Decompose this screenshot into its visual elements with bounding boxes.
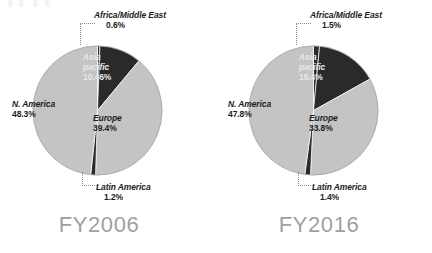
slice-name-europe: Europe xyxy=(93,113,122,123)
slice-name-asia-pacific-line2: pacific xyxy=(299,62,325,72)
slice-label-africa-middle-east: Africa/Middle East 0.6% xyxy=(94,10,166,30)
slice-percent-africa-middle-east: 1.5% xyxy=(322,20,382,30)
slice-name-europe: Europe xyxy=(309,113,338,123)
slice-name-latin-america: Latin America xyxy=(312,182,367,192)
charts-row: Africa/Middle East 0.6% Asia pacific 10.… xyxy=(0,0,432,253)
slice-label-north-america: N. America 48.3% xyxy=(12,99,55,119)
africa-leader-vertical xyxy=(296,23,297,45)
chart-panel-fy2006: Africa/Middle East 0.6% Asia pacific 10.… xyxy=(0,0,216,253)
slice-percent-asia-pacific: 15.4% xyxy=(299,72,325,82)
africa-leader-horizontal xyxy=(296,23,311,24)
slice-label-europe: Europe 39.4% xyxy=(93,113,122,133)
slice-percent-north-america: 47.8% xyxy=(228,109,271,119)
slice-percent-latin-america: 1.2% xyxy=(104,192,151,202)
slice-label-asia-pacific: Asia pacific 10.46% xyxy=(83,52,111,82)
slice-label-latin-america: Latin America 1.2% xyxy=(82,182,151,202)
africa-leader-horizontal xyxy=(80,23,95,24)
chart-title-fy2016: FY2016 xyxy=(216,212,432,238)
slice-label-latin-america: Latin America 1.4% xyxy=(298,182,367,202)
slice-percent-africa-middle-east: 0.6% xyxy=(106,20,166,30)
slice-label-asia-pacific: Asia pacific 15.4% xyxy=(299,52,325,82)
africa-leader-vertical xyxy=(80,23,81,45)
slice-name-africa-middle-east: Africa/Middle East xyxy=(94,10,166,20)
slice-percent-asia-pacific: 10.46% xyxy=(83,72,111,82)
slice-label-africa-middle-east: Africa/Middle East 1.5% xyxy=(310,10,382,30)
slice-name-asia-pacific-line1: Asia xyxy=(299,52,325,62)
slice-percent-europe: 33.8% xyxy=(309,123,338,133)
slice-name-asia-pacific-line2: pacific xyxy=(83,62,111,72)
slice-percent-europe: 39.4% xyxy=(93,123,122,133)
slice-percent-north-america: 48.3% xyxy=(12,109,55,119)
slice-label-north-america: N. America 47.8% xyxy=(228,99,271,119)
slice-name-north-america: N. America xyxy=(228,99,271,109)
slice-name-north-america: N. America xyxy=(12,99,55,109)
slice-name-africa-middle-east: Africa/Middle East xyxy=(310,10,382,20)
chart-title-fy2006: FY2006 xyxy=(0,212,216,238)
slice-label-europe: Europe 33.8% xyxy=(309,113,338,133)
chart-panel-fy2016: Africa/Middle East 1.5% Asia pacific 15.… xyxy=(216,0,432,253)
slice-name-latin-america: Latin America xyxy=(96,182,151,192)
slice-name-asia-pacific-line1: Asia xyxy=(83,52,111,62)
slice-percent-latin-america: 1.4% xyxy=(320,192,367,202)
